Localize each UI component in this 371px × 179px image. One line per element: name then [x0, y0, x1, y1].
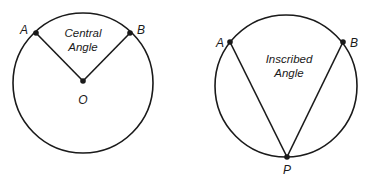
label-b: B: [350, 36, 358, 50]
central-angle-diagram: A B O Central Angle: [13, 13, 153, 153]
point-o: [80, 78, 86, 84]
inscribed-angle-diagram: A B P Inscribed Angle: [215, 15, 358, 177]
label-p: P: [283, 163, 291, 177]
point-a: [33, 30, 39, 36]
point-p: [284, 154, 290, 160]
caption-line2: Angle: [67, 41, 97, 53]
angle-diagrams: A B O Central Angle A B P Inscribed Angl…: [0, 0, 371, 179]
label-a: A: [19, 23, 28, 37]
label-b: B: [137, 23, 145, 37]
label-a: A: [215, 36, 224, 50]
caption-line2: Angle: [273, 67, 303, 79]
point-a: [227, 39, 233, 45]
point-b: [340, 39, 346, 45]
circle: [215, 15, 357, 157]
caption-line1: Central: [64, 27, 102, 39]
label-o: O: [78, 93, 87, 107]
caption-line1: Inscribed: [266, 53, 313, 65]
point-b: [127, 30, 133, 36]
